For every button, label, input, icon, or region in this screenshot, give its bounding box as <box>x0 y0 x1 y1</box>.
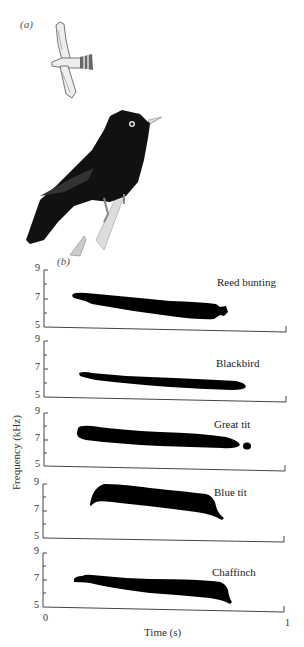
y-tick-5: 5 <box>27 599 39 610</box>
species-label-great-tit: Great tit <box>214 418 250 430</box>
y-tick-5: 5 <box>28 389 40 400</box>
y-tick-9: 9 <box>28 262 40 273</box>
y-tick-5: 5 <box>27 530 39 541</box>
species-label-chaffinch: Chaffinch <box>212 566 256 578</box>
y-tick-9: 9 <box>27 476 39 487</box>
y-tick-9: 9 <box>28 405 40 416</box>
y-tick-7: 7 <box>28 291 40 302</box>
y-tick-7: 7 <box>28 432 40 443</box>
x-tick-1: 1 <box>278 617 290 628</box>
y-tick-5: 5 <box>28 458 40 469</box>
song-traces <box>72 293 251 604</box>
species-label-reed-bunting: Reed bunting <box>217 276 276 288</box>
y-tick-7: 7 <box>27 572 39 583</box>
species-label-blue-tit: Blue tit <box>214 486 247 498</box>
trace-chaffinch <box>74 575 232 604</box>
y-tick-5: 5 <box>28 319 40 330</box>
y-tick-9: 9 <box>28 333 40 344</box>
y-axis-title: Frequency (kHz) <box>10 415 22 490</box>
spectrogram-chart <box>0 0 304 647</box>
trace-great-tit-note <box>243 443 251 450</box>
x-axis-title: Time (s) <box>144 626 181 638</box>
trace-blue-tit <box>90 484 224 520</box>
y-tick-9: 9 <box>27 545 39 556</box>
x-tick-0: 0 <box>36 612 48 623</box>
trace-blackbird <box>79 372 246 390</box>
y-tick-7: 7 <box>28 361 40 372</box>
species-label-blackbird: Blackbird <box>216 357 259 369</box>
trace-reed-bunting <box>72 293 228 320</box>
y-tick-7: 7 <box>27 503 39 514</box>
